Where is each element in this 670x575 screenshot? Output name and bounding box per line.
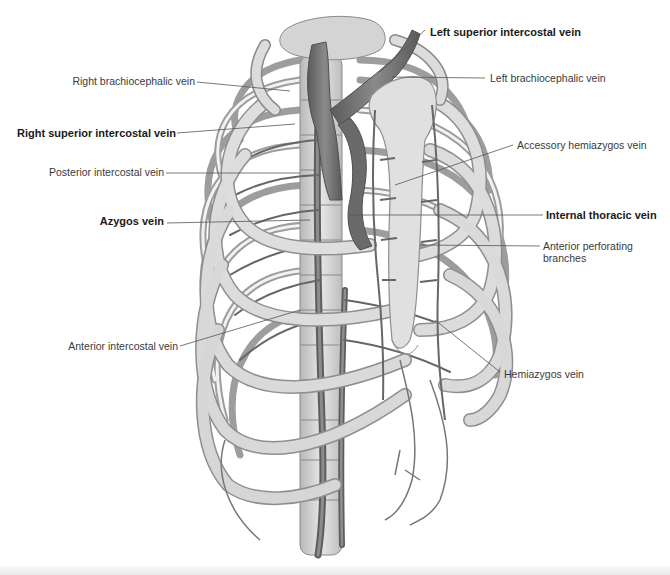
label-azygos-vein: Azygos vein <box>60 215 164 227</box>
label-internal-thoracic-vein: Internal thoracic vein <box>546 209 657 221</box>
bottom-edge-band <box>0 566 670 575</box>
label-right-brachiocephalic-vein: Right brachiocephalic vein <box>60 75 195 87</box>
label-anterior-intercostal-vein: Anterior intercostal vein <box>20 340 178 352</box>
label-left-superior-intercostal-vein: Left superior intercostal vein <box>430 26 581 38</box>
label-posterior-intercostal-vein: Posterior intercostal vein <box>20 166 164 178</box>
label-accessory-hemiazygos-vein: Accessory hemiazygos vein <box>517 139 647 151</box>
label-anterior-perforating-branches: Anterior perforating branches <box>543 240 633 264</box>
label-left-brachiocephalic-vein: Left brachiocephalic vein <box>490 72 606 84</box>
label-hemiazygos-vein: Hemiazygos vein <box>504 368 584 380</box>
label-right-superior-intercostal-vein: Right superior intercostal vein <box>0 127 176 139</box>
label-anterior-perforating-line1: Anterior perforating <box>543 240 633 252</box>
label-anterior-perforating-line2: branches <box>543 252 633 264</box>
